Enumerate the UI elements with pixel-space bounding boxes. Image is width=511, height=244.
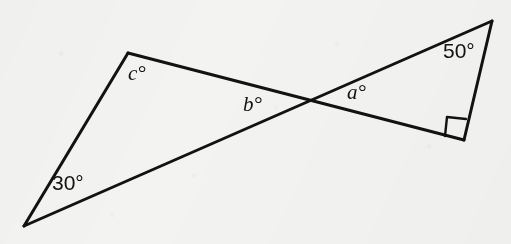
angle-label-30: 30° — [52, 172, 84, 193]
angle-label-c: c° — [128, 63, 146, 84]
right-angle-square-icon — [445, 117, 466, 136]
angle-label-b: b° — [243, 94, 262, 115]
long-line-left-apex-to-right-angle-vertex — [128, 53, 464, 140]
left-triangle-left-side — [24, 53, 128, 226]
geometry-diagram: 30°c°b°a°50° — [0, 0, 511, 244]
long-line-bottom-left-to-top-right — [24, 21, 492, 226]
angle-label-50: 50° — [443, 40, 475, 61]
diagram-line-group — [24, 21, 492, 226]
angle-label-a: a° — [347, 82, 366, 103]
diagram-canvas — [0, 0, 511, 244]
